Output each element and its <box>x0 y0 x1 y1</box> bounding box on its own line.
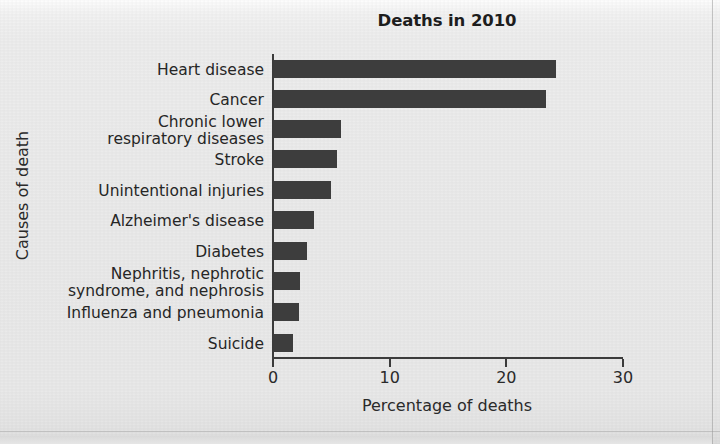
category-label-stroke: Stroke <box>4 152 264 169</box>
x-tick-label: 20 <box>486 368 526 387</box>
bar-nephritis[interactable] <box>274 272 300 290</box>
category-label-alzheimers-disease: Alzheimer's disease <box>4 213 264 230</box>
bar-row[interactable] <box>274 181 331 199</box>
category-label-unintentional-injuries: Unintentional injuries <box>4 183 264 200</box>
bar-chart-figure: Deaths in 2010 Causes of death Percentag… <box>0 0 720 444</box>
bar-row[interactable] <box>274 60 556 78</box>
category-label-nephritis-line2: syndrome, and nephrosis <box>4 283 264 300</box>
bar-stroke[interactable] <box>274 150 337 168</box>
category-label-influenza-pneumonia: Influenza and pneumonia <box>4 305 264 322</box>
bar-row[interactable] <box>274 120 341 138</box>
x-axis-line <box>272 357 623 359</box>
category-label-heart-disease: Heart disease <box>4 62 264 79</box>
x-tick-mark <box>622 359 624 367</box>
bar-chronic-lower-respiratory-diseases[interactable] <box>274 120 341 138</box>
category-label-nephritis-line1: Nephritis, nephrotic <box>4 266 264 283</box>
bar-influenza-pneumonia[interactable] <box>274 303 299 321</box>
bar-cancer[interactable] <box>274 90 546 108</box>
x-tick-label: 10 <box>370 368 410 387</box>
x-tick-label: 30 <box>603 368 643 387</box>
bar-row[interactable] <box>274 211 314 229</box>
x-tick-mark <box>272 359 274 367</box>
category-label-group: Heart disease Cancer Chronic lower respi… <box>0 54 264 358</box>
bar-unintentional-injuries[interactable] <box>274 181 331 199</box>
category-label-clrd-line2: respiratory diseases <box>4 131 264 148</box>
bar-suicide[interactable] <box>274 334 293 352</box>
category-label-clrd-line1: Chronic lower <box>4 114 264 131</box>
bar-heart-disease[interactable] <box>274 60 556 78</box>
x-tick-mark <box>389 359 391 367</box>
bar-row[interactable] <box>274 242 307 260</box>
plot-area: 0102030 <box>272 54 622 358</box>
bar-row[interactable] <box>274 90 546 108</box>
x-tick-mark <box>505 359 507 367</box>
bar-alzheimers-disease[interactable] <box>274 211 314 229</box>
bar-row[interactable] <box>274 334 293 352</box>
category-label-suicide: Suicide <box>4 336 264 353</box>
bar-row[interactable] <box>274 303 299 321</box>
category-label-cancer: Cancer <box>4 92 264 109</box>
x-axis-label: Percentage of deaths <box>272 396 622 415</box>
bar-row[interactable] <box>274 150 337 168</box>
bar-diabetes[interactable] <box>274 242 307 260</box>
category-label-diabetes: Diabetes <box>4 244 264 261</box>
bar-row[interactable] <box>274 272 300 290</box>
screenshot-page: Deaths in 2010 Causes of death Percentag… <box>0 0 720 444</box>
x-tick-label: 0 <box>253 368 293 387</box>
chart-title: Deaths in 2010 <box>272 11 622 30</box>
